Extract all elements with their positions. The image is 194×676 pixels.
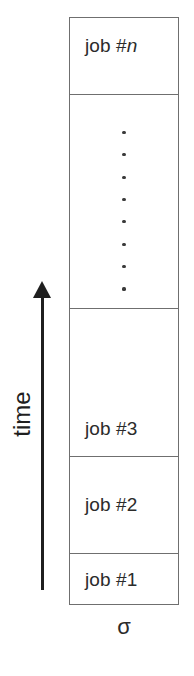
ellipsis-dot: [122, 243, 125, 246]
vertical-ellipsis-icon: [70, 131, 178, 291]
job-cell-3: job #3: [70, 309, 178, 457]
sequence-caption-sigma: σ: [69, 614, 179, 640]
job-stack: job #n job #3 job #2 job #1: [69, 17, 179, 605]
job-label-n: job #n: [70, 36, 137, 55]
job-cell-n: job #n: [70, 18, 178, 95]
time-axis-label: time: [8, 374, 36, 454]
ellipsis-dot: [122, 153, 125, 156]
ellipsis-dot: [122, 265, 125, 268]
diagram-canvas: time job #n job #3 job #2 job #1: [0, 0, 194, 676]
job-label-n-prefix: job #: [85, 35, 127, 56]
job-cell-1: job #1: [70, 554, 178, 604]
time-axis-line: [41, 292, 44, 590]
job-label-n-suffix: n: [127, 35, 138, 56]
ellipsis-dot: [122, 176, 125, 179]
ellipsis-dot: [122, 198, 125, 201]
job-cell-ellipsis: [70, 95, 178, 309]
job-cell-2: job #2: [70, 457, 178, 555]
job-label-2: job #2: [70, 495, 137, 514]
ellipsis-dot: [122, 131, 125, 134]
ellipsis-dot: [122, 220, 125, 223]
job-label-3: job #3: [70, 419, 137, 438]
ellipsis-dot: [122, 287, 125, 290]
job-label-1: job #1: [70, 570, 137, 589]
